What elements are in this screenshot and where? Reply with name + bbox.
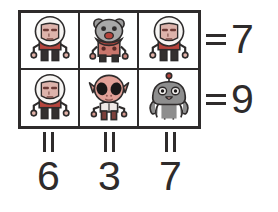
row-sum-2-value: 9: [231, 79, 254, 120]
octopus-alien-icon: [142, 71, 196, 125]
astronaut-icon: [23, 13, 77, 67]
column-sum-2-value: 3: [98, 156, 121, 197]
row-sum-1: 7: [206, 10, 276, 69]
equals-icon: [206, 93, 226, 107]
astronaut-icon: [23, 71, 77, 125]
grid-cell-r2c3[interactable]: [139, 70, 198, 127]
equals-icon: [206, 33, 226, 47]
equals-icon-vertical: [103, 132, 117, 152]
column-sum-3: 7: [140, 132, 201, 210]
grid-cell-r2c1[interactable]: [21, 70, 80, 127]
grid-cell-r2c2[interactable]: [80, 70, 139, 127]
puzzle-grid: [18, 10, 201, 129]
column-sum-1: 6: [18, 132, 79, 210]
grid-cell-r1c2[interactable]: [80, 13, 139, 70]
gray-bear-alien-icon: [82, 13, 136, 67]
astronaut-icon: [142, 13, 196, 67]
column-sum-3-value: 7: [159, 156, 182, 197]
puzzle-container: 7 9 6 3 7: [0, 0, 278, 212]
row-sum-1-value: 7: [231, 19, 254, 60]
column-sum-2: 3: [79, 132, 140, 210]
row-sum-2: 9: [206, 70, 276, 129]
equals-icon-vertical: [164, 132, 178, 152]
column-sums: 6 3 7: [18, 132, 201, 210]
pink-alien-icon: [82, 71, 136, 125]
grid-cell-r1c3[interactable]: [139, 13, 198, 70]
column-sum-1-value: 6: [37, 156, 60, 197]
grid-cell-r1c1[interactable]: [21, 13, 80, 70]
equals-icon-vertical: [42, 132, 56, 152]
